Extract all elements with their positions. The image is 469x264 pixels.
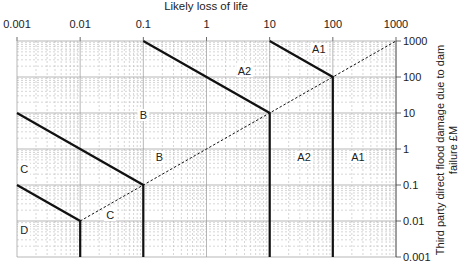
- region-label: D: [18, 224, 30, 236]
- region-label: A1: [310, 43, 327, 55]
- region-label: B: [154, 151, 165, 163]
- region-label: C: [104, 209, 116, 221]
- region-label: B: [138, 109, 149, 121]
- region-label: A1: [349, 151, 366, 163]
- plot-area: [0, 0, 469, 264]
- region-label: A2: [236, 65, 253, 77]
- region-label: A2: [295, 151, 312, 163]
- region-label: C: [18, 163, 30, 175]
